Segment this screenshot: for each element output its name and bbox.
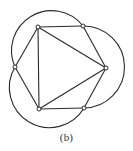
edge-a-b	[38, 26, 83, 27]
vertex-e	[37, 107, 41, 111]
vertex-f	[13, 65, 17, 69]
vertices	[13, 24, 108, 111]
figure-caption: (b)	[0, 131, 133, 143]
edge-a-c	[38, 27, 106, 68]
vertex-c	[104, 66, 108, 70]
vertex-d	[82, 106, 86, 110]
edge-c-d	[84, 68, 106, 108]
vertex-a	[36, 25, 40, 29]
edge-e-f	[15, 67, 39, 109]
triangle-edges	[38, 27, 106, 109]
vertex-b	[81, 24, 85, 28]
hexagon-edges	[15, 26, 106, 109]
edge-d-e	[39, 108, 84, 109]
arc-f-b	[12, 11, 83, 67]
edge-c-e	[39, 68, 106, 109]
edge-f-a	[15, 27, 38, 67]
edge-e-a	[38, 27, 39, 109]
graph-diagram	[0, 0, 133, 151]
